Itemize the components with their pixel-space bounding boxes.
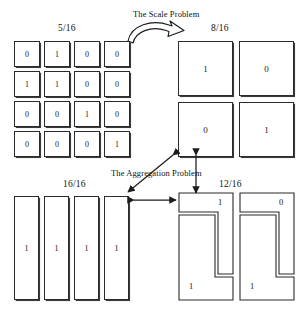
maup-figure: The Scale Problem The Aggregation Proble… (0, 0, 299, 315)
arrow-overlay (0, 0, 299, 315)
aggregation-arrow-diagonal (128, 155, 173, 192)
scale-problem-arrow (128, 21, 184, 43)
